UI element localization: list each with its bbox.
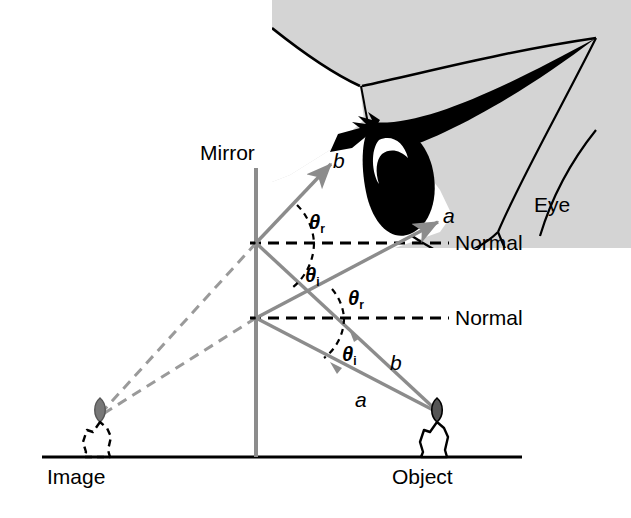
ray-b-incident <box>256 243 436 410</box>
object-flame <box>432 398 443 422</box>
virtual-ray-upper <box>103 243 256 411</box>
theta-r-upper-label: θr <box>309 212 325 232</box>
theta-i-upper-symbol: θ <box>305 264 316 286</box>
eye-label: Eye <box>534 194 570 215</box>
object-label: Object <box>392 466 453 487</box>
image-flame <box>95 398 106 422</box>
theta-r-lower-symbol: θ <box>348 287 359 309</box>
theta-i-upper-subscript: i <box>316 275 319 289</box>
object-candle-body <box>420 422 448 457</box>
theta-r-lower-subscript: r <box>359 298 364 312</box>
theta-r-upper-symbol: θ <box>309 211 320 233</box>
image-candle-body <box>83 422 111 457</box>
theta-i-lower-label: θi <box>342 344 357 364</box>
virtual-ray-lower <box>103 318 256 414</box>
theta-i-lower-symbol: θ <box>342 343 353 365</box>
theta-r-upper-subscript: r <box>320 222 325 236</box>
ray-a-incident <box>256 318 437 412</box>
diagram-canvas <box>0 0 631 518</box>
theta-i-lower-subscript: i <box>353 354 356 368</box>
mirror-label: Mirror <box>200 142 255 163</box>
virtual-rays <box>103 243 256 414</box>
normal-label-upper: Normal <box>455 232 523 253</box>
image-label: Image <box>47 466 105 487</box>
ray-a-lower-label: a <box>355 389 367 410</box>
theta-i-upper-label: θi <box>305 265 320 285</box>
normal-label-lower: Normal <box>455 307 523 328</box>
theta-r-lower-label: θr <box>348 288 364 308</box>
ray-b-lower-label: b <box>390 352 402 373</box>
reflection-diagram: Mirror Eye Normal Normal Image Object b … <box>0 0 631 518</box>
ray-b-upper-label: b <box>333 150 345 171</box>
ray-a-incident-arrow <box>330 362 342 374</box>
ray-a-upper-label: a <box>443 205 455 226</box>
